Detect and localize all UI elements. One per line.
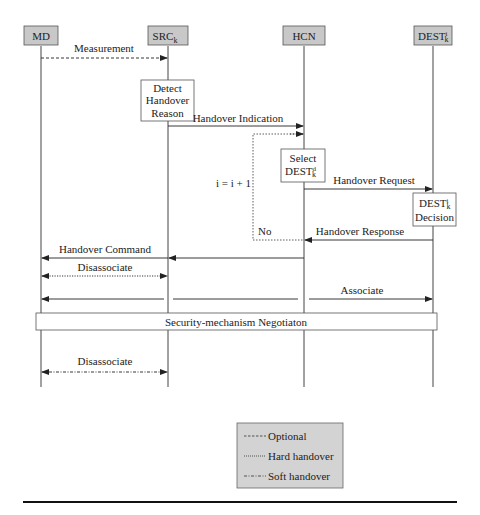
message-label: Disassociate: [78, 355, 133, 367]
participant-label: MD: [32, 30, 50, 42]
message-label: Handover Indication: [193, 112, 284, 124]
loop-counter-label: i = i + 1: [216, 177, 251, 189]
svg-text:Handover: Handover: [146, 94, 190, 106]
svg-text:Select: Select: [290, 152, 317, 164]
loop-no-label: No: [258, 225, 272, 237]
message-associate: Associate: [42, 284, 432, 299]
participant-label: SRC: [153, 30, 174, 42]
sequence-diagram: MD SRCk HCN DESTik Measurement Detect Ha…: [0, 0, 480, 515]
message-label: Associate: [341, 284, 384, 296]
participant-label: DEST: [418, 30, 446, 42]
security-negotiation-bar: Security-mechanism Negotiaton: [36, 313, 437, 330]
message-label: Disassociate: [78, 261, 133, 273]
participant-subscript: k: [173, 36, 177, 45]
participant-hcn: HCN: [283, 26, 325, 45]
participant-label: HCN: [292, 30, 315, 42]
svg-text:Hard handover: Hard handover: [268, 450, 334, 462]
svg-text:Detect: Detect: [153, 82, 182, 94]
svg-text:DESTik: DESTik: [419, 197, 450, 211]
message-handover-command: Handover Command: [42, 243, 304, 258]
participant-dest: DESTik: [414, 26, 452, 45]
process-select-dest: Select DESTdk: [281, 149, 325, 182]
process-dest-decision: DESTik Decision: [413, 193, 456, 226]
process-detect-handover-reason: Detect Handover Reason: [141, 80, 194, 121]
svg-text:Reason: Reason: [151, 107, 184, 119]
message-label: Handover Command: [59, 243, 151, 255]
lifelines: [41, 46, 433, 387]
message-disassociate-hard: Disassociate: [42, 261, 167, 276]
svg-text:Optional: Optional: [268, 430, 307, 442]
message-label: Handover Request: [333, 174, 415, 186]
message-label: Handover Response: [316, 225, 404, 237]
participant-md: MD: [24, 26, 58, 45]
legend: Optional Hard handover Soft handover: [237, 423, 343, 488]
security-negotiation-label: Security-mechanism Negotiaton: [165, 316, 308, 328]
svg-text:DESTik: DESTik: [418, 30, 448, 44]
message-label: Measurement: [74, 42, 134, 54]
participant-src: SRCk: [148, 26, 188, 45]
svg-text:Soft handover: Soft handover: [268, 470, 330, 482]
svg-text:Decision: Decision: [415, 211, 455, 223]
message-disassociate-soft: Disassociate: [42, 355, 167, 372]
svg-text:DESTdk: DESTdk: [285, 165, 317, 179]
message-handover-response: Handover Response: [305, 225, 433, 240]
